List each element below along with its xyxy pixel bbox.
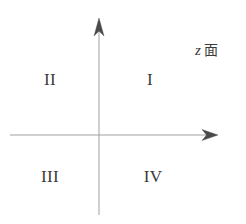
quadrant-label-ii: II — [44, 71, 56, 88]
quadrant-label-iv: IV — [144, 168, 163, 185]
plane-word-mian: 面 — [204, 42, 218, 58]
plane-label: z面 — [195, 43, 218, 58]
plane-variable-z: z — [195, 42, 201, 58]
quadrant-label-iii: III — [41, 168, 59, 185]
coordinate-axes — [0, 0, 246, 224]
quadrant-label-i: I — [147, 71, 153, 88]
figure-canvas: I II III IV z面 — [0, 0, 246, 224]
